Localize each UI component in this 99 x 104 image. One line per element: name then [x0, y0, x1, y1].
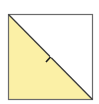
split-square-diagram [0, 0, 99, 104]
diagram-canvas [0, 0, 99, 104]
